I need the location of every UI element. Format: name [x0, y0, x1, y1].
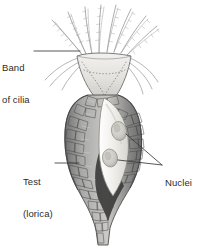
label-nuclei: Nuclei — [165, 157, 192, 210]
label-band-of-cilia-line1: Band — [2, 63, 30, 74]
label-band-of-cilia-line2: of cilia — [2, 95, 30, 106]
cilium — [114, 9, 133, 52]
label-band-of-cilia: Band of cilia — [2, 42, 30, 126]
label-test-lorica-line1: Test — [23, 177, 53, 188]
label-test-lorica: Test (lorica) — [23, 156, 53, 240]
label-nuclei-line1: Nuclei — [165, 178, 192, 189]
cilium — [127, 26, 159, 55]
cilia-group — [52, 5, 159, 57]
ciliary-bell — [77, 53, 131, 98]
figure-canvas: Band of cilia Test (lorica) Nuclei — [0, 0, 199, 250]
cilium — [99, 5, 104, 53]
cilium — [85, 7, 92, 54]
label-test-lorica-line2: (lorica) — [23, 209, 53, 220]
